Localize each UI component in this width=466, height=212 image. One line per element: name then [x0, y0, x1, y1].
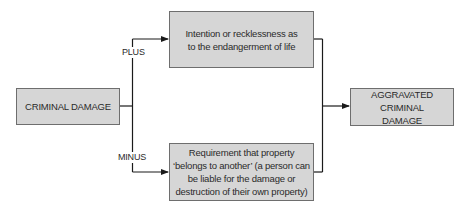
node-label: Requirement that property ‘belongs to an…	[170, 146, 313, 198]
node-aggravated: AGGRAVATED CRIMINAL DAMAGE	[350, 88, 454, 126]
node-criminal-damage: CRIMINAL DAMAGE	[16, 88, 120, 125]
edge-label-minus: MINUS	[117, 152, 147, 163]
diagram-canvas: CRIMINAL DAMAGE Intention or recklessnes…	[0, 0, 466, 212]
node-label: AGGRAVATED CRIMINAL DAMAGE	[351, 88, 453, 127]
node-intention: Intention or recklessness as to the enda…	[169, 11, 314, 68]
node-label: CRIMINAL DAMAGE	[21, 100, 115, 113]
node-label: Intention or recklessness as to the enda…	[170, 27, 313, 53]
edge-label-plus: PLUS	[121, 47, 146, 58]
node-requirement: Requirement that property ‘belongs to an…	[169, 143, 314, 201]
